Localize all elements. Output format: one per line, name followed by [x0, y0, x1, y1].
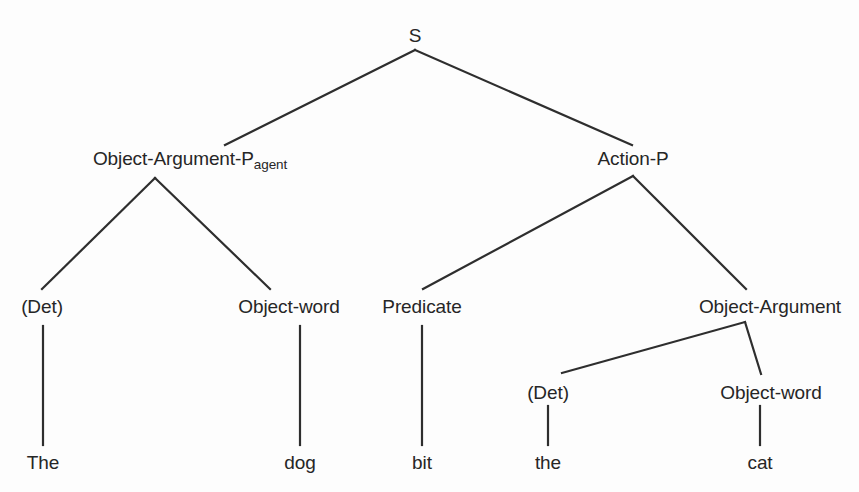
- node-predicate: Predicate: [382, 297, 461, 316]
- edge-group: [42, 50, 761, 445]
- tree-edge-predicate-to-verb: [423, 176, 633, 289]
- terminal-word: The: [27, 453, 59, 472]
- node-label-main: Object-Argument-P: [93, 148, 254, 169]
- tree-edge-subject-to-noun: [155, 178, 270, 289]
- node-object-argument-p-agent: Object-Argument-Pagent: [93, 149, 287, 168]
- node-label-subscript: agent: [254, 157, 287, 172]
- node-subject-object-word: Object-word: [238, 297, 339, 316]
- terminal-word: dog: [284, 453, 315, 472]
- tree-edge-s-to-subject: [225, 50, 415, 145]
- tree-edges-layer: [0, 0, 859, 492]
- node-object-object-word: Object-word: [720, 383, 821, 402]
- syntax-tree-diagram: S Object-Argument-Pagent Action-P (Det) …: [0, 0, 859, 492]
- node-action-p: Action-P: [597, 149, 668, 168]
- node-s: S: [409, 26, 422, 45]
- tree-edge-object-to-noun: [745, 322, 761, 374]
- tree-edge-s-to-predicate: [415, 50, 632, 145]
- terminal-word: bit: [412, 453, 432, 472]
- terminal-word: the: [535, 453, 561, 472]
- node-object-argument: Object-Argument: [699, 297, 841, 316]
- terminal-word: cat: [747, 453, 772, 472]
- tree-edge-object-to-det: [562, 322, 745, 373]
- node-object-det: (Det): [527, 383, 569, 402]
- tree-edge-predicate-to-object: [633, 176, 746, 289]
- node-subject-det: (Det): [21, 297, 63, 316]
- tree-edge-subject-to-det: [42, 178, 155, 289]
